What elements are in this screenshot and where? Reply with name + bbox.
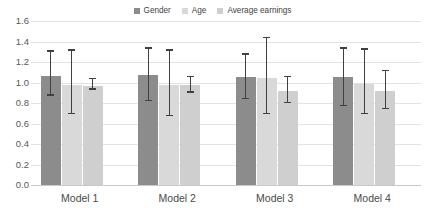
error-bar-cap <box>187 76 194 77</box>
error-bar-cap <box>145 47 152 48</box>
bar[interactable] <box>180 85 200 185</box>
y-axis-tick-label: 0.0 <box>3 180 29 190</box>
bar-group <box>324 21 422 185</box>
y-axis: 0.00.20.40.60.81.01.21.41.6 <box>0 21 29 185</box>
x-axis-tick-label: Model 4 <box>324 188 422 208</box>
legend-label-gender: Gender <box>144 7 171 15</box>
legend-item-gender: Gender <box>134 7 171 15</box>
error-bar-cap <box>68 113 75 114</box>
error-bar-cap <box>284 76 291 77</box>
error-bar-cap <box>340 47 347 48</box>
bar-group <box>226 21 324 185</box>
y-axis-tick-label: 0.6 <box>3 119 29 129</box>
y-axis-tick-label: 0.2 <box>3 160 29 170</box>
bar-slot <box>159 21 179 185</box>
error-bar <box>364 50 365 115</box>
error-bar-cap <box>166 115 173 116</box>
error-bar-cap <box>242 98 249 99</box>
error-bar <box>266 38 267 114</box>
error-bar-cap <box>263 37 270 38</box>
bar-group <box>129 21 227 185</box>
error-bar-cap <box>263 113 270 114</box>
bar-slot <box>83 21 103 185</box>
bar-slot <box>180 21 200 185</box>
y-axis-tick-label: 1.2 <box>3 57 29 67</box>
error-bar <box>148 49 149 101</box>
error-bar <box>343 49 344 106</box>
bar-slot <box>41 21 61 185</box>
error-bar-cap <box>361 48 368 49</box>
error-bar <box>71 51 72 115</box>
error-bar-cap <box>242 53 249 54</box>
legend-item-average-earnings: Average earnings <box>217 7 291 15</box>
bar-group <box>31 21 129 185</box>
error-bar <box>169 51 170 117</box>
error-bar-cap <box>361 113 368 114</box>
x-axis-tick-label: Model 3 <box>226 188 324 208</box>
error-bar-cap <box>47 50 54 51</box>
legend-swatch-age-icon <box>182 8 188 14</box>
y-axis-tick-label: 1.4 <box>3 37 29 47</box>
error-bar-cap <box>145 100 152 101</box>
error-bar-cap <box>187 91 194 92</box>
error-bar-cap <box>47 94 54 95</box>
bar-slot <box>257 21 277 185</box>
bar-groups <box>31 21 421 185</box>
legend-swatch-average-earnings-icon <box>217 8 223 14</box>
x-axis-tick-label: Model 2 <box>129 188 227 208</box>
bar-slot <box>62 21 82 185</box>
chart-legend: Gender Age Average earnings <box>0 4 425 18</box>
error-bar-cap <box>382 70 389 71</box>
y-axis-tick-label: 0.4 <box>3 139 29 149</box>
error-bar-cap <box>340 105 347 106</box>
bar[interactable] <box>83 86 103 185</box>
error-bar-cap <box>284 102 291 103</box>
y-axis-tick-label: 1.6 <box>3 16 29 26</box>
error-bar-cap <box>89 88 96 89</box>
legend-swatch-gender-icon <box>134 8 140 14</box>
legend-label-average-earnings: Average earnings <box>227 7 291 15</box>
bar-slot <box>138 21 158 185</box>
bar-chart: Gender Age Average earnings 0.00.20.40.6… <box>0 0 425 210</box>
error-bar <box>287 77 288 103</box>
bar-slot <box>278 21 298 185</box>
error-bar-cap <box>166 49 173 50</box>
x-axis-tick-label: Model 1 <box>31 188 129 208</box>
error-bar-cap <box>68 49 75 50</box>
error-bar-cap <box>382 108 389 109</box>
error-bar-cap <box>89 78 96 79</box>
y-axis-tick-label: 1.0 <box>3 78 29 88</box>
y-axis-tick-label: 0.8 <box>3 98 29 108</box>
bar-slot <box>375 21 395 185</box>
error-bar <box>385 71 386 109</box>
bar-slot <box>236 21 256 185</box>
legend-item-age: Age <box>182 7 207 15</box>
bar-slot <box>333 21 353 185</box>
error-bar <box>245 55 246 99</box>
error-bar <box>50 52 51 96</box>
bar[interactable] <box>278 91 298 185</box>
legend-label-age: Age <box>192 7 207 15</box>
x-axis-line <box>31 185 421 186</box>
x-axis-labels: Model 1Model 2Model 3Model 4 <box>31 188 421 208</box>
bar-slot <box>354 21 374 185</box>
